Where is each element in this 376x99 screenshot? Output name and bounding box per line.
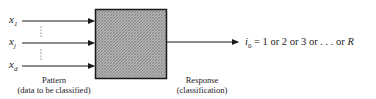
classifier-block <box>96 10 167 79</box>
ellipsis-dots-upper <box>40 26 41 36</box>
input-caption-line1: Pattern <box>10 75 98 85</box>
output-caption: Response (classification) <box>172 75 232 95</box>
input-caption: Pattern (data to be classified) <box>10 75 98 95</box>
ellipsis-dots-lower <box>40 49 41 59</box>
input-label-x1: x1 <box>9 14 17 30</box>
input-label-xj: xj <box>9 36 16 52</box>
input-label-xd: xd <box>9 59 17 75</box>
input-caption-line2: (data to be classified) <box>10 85 98 95</box>
output-caption-line1: Response <box>172 75 232 85</box>
output-caption-line2: (classification) <box>172 85 232 95</box>
output-expression: i0 = 1 or 2 or 3 or . . . or R <box>245 36 354 52</box>
